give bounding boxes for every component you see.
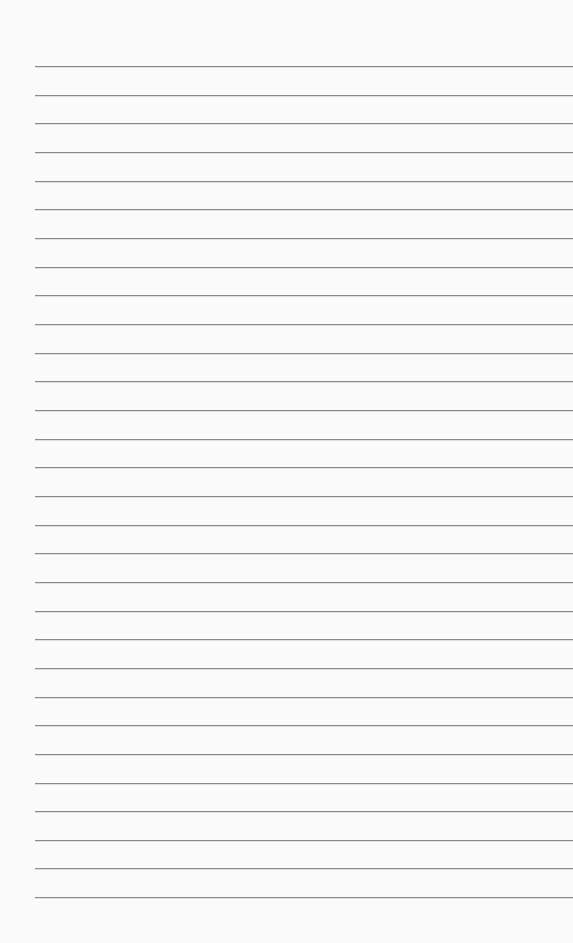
ruled-line <box>35 410 573 411</box>
ruled-line <box>35 181 573 182</box>
ruled-line <box>35 123 573 124</box>
ruled-line <box>35 582 573 583</box>
ruled-line <box>35 754 573 755</box>
ruled-line <box>35 152 573 153</box>
ruled-line <box>35 381 573 382</box>
ruled-line <box>35 783 573 784</box>
ruled-line <box>35 553 573 554</box>
ruled-line <box>35 897 573 898</box>
ruled-line <box>35 95 573 96</box>
ruled-line <box>35 611 573 612</box>
ruled-line <box>35 467 573 468</box>
ruled-line <box>35 267 573 268</box>
ruled-line <box>35 439 573 440</box>
ruled-line <box>35 811 573 812</box>
lined-paper-sheet <box>0 0 573 943</box>
ruled-line <box>35 668 573 669</box>
ruled-line <box>35 525 573 526</box>
ruled-line <box>35 295 573 296</box>
ruled-line <box>35 868 573 869</box>
ruled-line <box>35 725 573 726</box>
ruled-line <box>35 697 573 698</box>
ruled-line <box>35 209 573 210</box>
ruled-line <box>35 353 573 354</box>
ruled-line <box>35 238 573 239</box>
ruled-line <box>35 66 573 67</box>
ruled-line <box>35 639 573 640</box>
ruled-line <box>35 496 573 497</box>
ruled-line <box>35 840 573 841</box>
ruled-line <box>35 324 573 325</box>
